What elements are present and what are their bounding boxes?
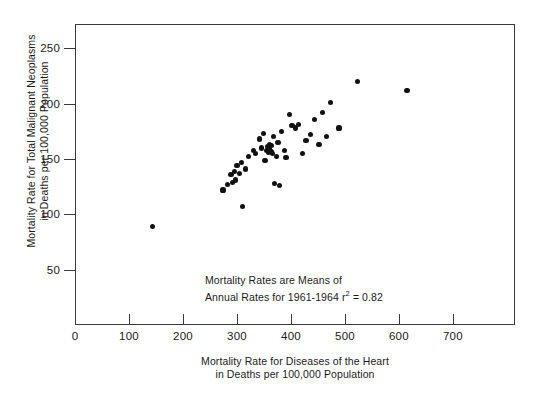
x-axis-title-line1: Mortality Rate for Diseases of the Heart — [75, 355, 515, 368]
y-axis-tick — [64, 214, 75, 215]
y-axis-tick — [64, 159, 75, 160]
x-axis-title: Mortality Rate for Diseases of the Heart… — [75, 355, 515, 381]
x-axis-tick — [291, 314, 292, 325]
annotation-line-2: Annual Rates for 1961-1964 r2 = 0.82 — [205, 287, 383, 304]
x-axis-title-line2: in Deaths per 100,000 Population — [75, 368, 515, 381]
x-axis-tick-label: 600 — [377, 330, 421, 342]
annotation-r-squared-value: = 0.82 — [353, 291, 383, 303]
x-axis-tick — [183, 314, 184, 325]
x-axis-tick-label: 200 — [161, 330, 205, 342]
x-axis-tick-label: 300 — [215, 330, 259, 342]
x-axis-tick-label: 700 — [431, 330, 475, 342]
x-axis-tick — [345, 314, 346, 325]
annotation-superscript: 2 — [346, 289, 350, 298]
x-axis-tick — [453, 314, 454, 325]
y-axis-title-line1: Mortality Rate for Total Malignant Neopl… — [25, 11, 38, 271]
x-axis-tick-label: 100 — [107, 330, 151, 342]
x-axis-tick — [129, 314, 130, 325]
x-axis-tick-label: 500 — [323, 330, 367, 342]
annotation-r-squared-prefix: Annual Rates for 1961-1964 r — [205, 291, 346, 303]
x-axis-tick — [237, 314, 238, 325]
x-axis-tick-label: 400 — [269, 330, 313, 342]
annotation-line-1: Mortality Rates are Means of — [205, 274, 383, 287]
x-axis-tick — [399, 314, 400, 325]
y-axis-title-line2: in Deaths per 100,000 Population — [38, 11, 51, 271]
chart-annotation: Mortality Rates are Means of Annual Rate… — [205, 274, 383, 304]
y-axis-title: Mortality Rate for Total Malignant Neopl… — [25, 11, 51, 271]
y-axis-tick — [64, 104, 75, 105]
scatter-plot-figure: 50100150200250 0100200300400500600700 Mo… — [0, 0, 536, 396]
x-axis-tick-label: 0 — [53, 330, 97, 342]
y-axis-tick — [64, 48, 75, 49]
y-axis-tick — [64, 270, 75, 271]
